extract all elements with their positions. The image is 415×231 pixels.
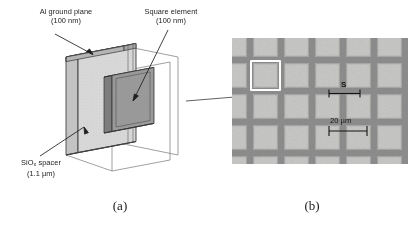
sem-dimension-scale-bar [329, 126, 367, 136]
al-ground-plane-label: Al ground plane (100 nm) [22, 7, 110, 26]
sem-dimension-s [329, 90, 360, 98]
panel-b-caption: (b) [292, 198, 332, 214]
siox-spacer-label-formula-pre: SiO [21, 158, 33, 167]
figure-root: Al ground plane (100 nm) Square element … [0, 0, 415, 231]
sem-dimension-annotations [232, 38, 408, 164]
square-element-label-line2: (100 nm) [156, 16, 186, 25]
square-element-label-line1: Square element [145, 7, 198, 16]
square-element-label: Square element (100 nm) [128, 7, 214, 26]
al-ground-plane-label-line2: (100 nm) [51, 16, 81, 25]
siox-spacer-label-line1: SiOx spacer [21, 158, 61, 167]
siox-spacer-label: SiOx spacer (1.1 µm) [6, 158, 76, 179]
al-ground-plane-label-line1: Al ground plane [40, 7, 93, 16]
al-ground-plane-leader [55, 34, 93, 55]
siox-spacer-label-formula-post: spacer [36, 158, 61, 167]
panel-a-caption: (a) [100, 198, 140, 214]
sem-label-scale-bar: 20 µm [330, 116, 351, 125]
square-element-patch [104, 67, 154, 133]
sem-micrograph-panel: S 20 µm [232, 38, 408, 164]
siox-spacer-label-line2: (1.1 µm) [27, 169, 55, 178]
sem-label-period-s: S [341, 80, 346, 89]
